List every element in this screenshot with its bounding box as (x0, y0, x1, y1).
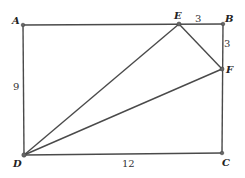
label-a: A (11, 15, 20, 26)
measure-dc: 12 (122, 158, 135, 169)
segment-bc (222, 24, 223, 153)
segment-df (24, 69, 222, 155)
point-e (177, 22, 181, 26)
segment-ab (23, 24, 223, 25)
label-b: B (224, 13, 233, 24)
point-d (22, 153, 26, 157)
label-c: C (222, 157, 230, 168)
segment-da (23, 25, 24, 155)
point-c (220, 151, 224, 155)
geometry-diagram: A B C D E F 3 3 9 12 (0, 0, 245, 178)
point-f (220, 67, 224, 71)
measure-ad: 9 (13, 81, 19, 92)
label-d: D (12, 158, 22, 169)
segment-cd (24, 153, 222, 155)
measure-eb: 3 (195, 13, 201, 24)
label-e: E (173, 10, 182, 21)
segment-de (24, 24, 179, 155)
point-a (21, 23, 25, 27)
segment-ef (179, 24, 222, 69)
label-f: F (225, 64, 234, 75)
measure-bf: 3 (224, 38, 230, 49)
